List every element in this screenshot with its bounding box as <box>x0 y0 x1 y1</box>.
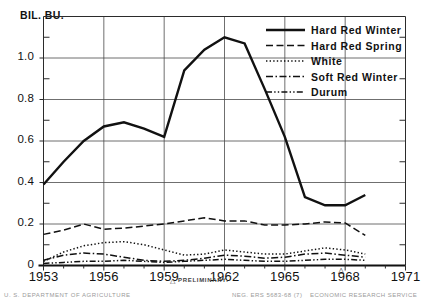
y-tick-label: 0.8 <box>0 92 34 104</box>
y-tick-label: 1.0 <box>0 50 34 62</box>
legend-item-hard-red-spring: Hard Red Spring <box>311 40 402 52</box>
x-tick-label: 1965 <box>257 269 313 284</box>
x-tick-label: 1971 <box>378 269 428 284</box>
legend-item-soft-red-winter: Soft Red Winter <box>311 71 398 83</box>
x-tick-label: 1956 <box>76 269 132 284</box>
footer-service: ECONOMIC RESEARCH SERVICE <box>310 292 417 298</box>
chart-container: BIL. BU. 00.20.40.60.81.0 19531956195919… <box>0 0 428 305</box>
legend-item-durum: Durum <box>311 86 348 98</box>
preliminary-marker-axis: △ <box>338 266 344 275</box>
x-tick-label: 1968 <box>317 269 373 284</box>
y-tick-label: 0.2 <box>0 216 34 228</box>
preliminary-note: PRELIMINARY. <box>178 277 229 283</box>
footer-neg-number: NEG. ERS 5683-68 (7) <box>232 292 302 298</box>
y-tick-label: 0.6 <box>0 133 34 145</box>
legend-sample-lines <box>266 30 305 92</box>
series-line-durum <box>44 259 366 263</box>
legend-item-white: White <box>311 55 342 67</box>
legend-item-hard-red-winter: Hard Red Winter <box>311 24 401 36</box>
y-tick-label: 0.4 <box>0 175 34 187</box>
footer-agency: U. S. DEPARTMENT OF AGRICULTURE <box>4 292 131 298</box>
y-tick-label: 0 <box>0 258 34 270</box>
x-tick-label: 1953 <box>16 269 72 284</box>
series-line-hard-red-spring <box>44 218 366 236</box>
preliminary-marker-note: △ <box>170 277 175 285</box>
